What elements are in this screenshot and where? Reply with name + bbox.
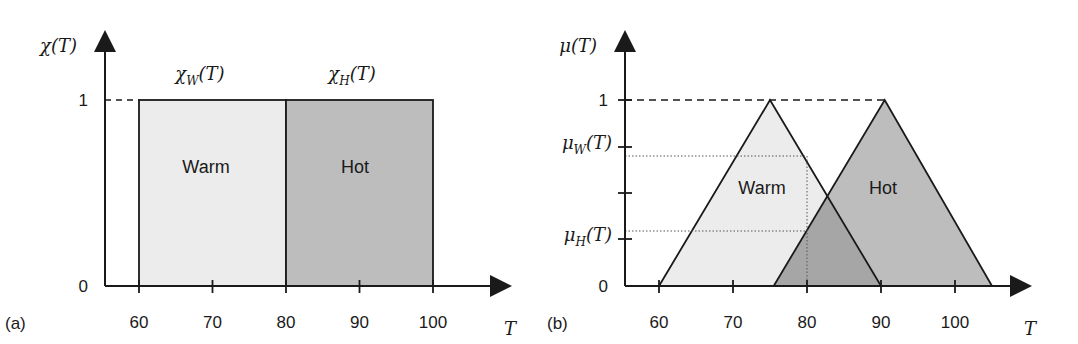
- y-tick-label-h-symbol: μ: [564, 224, 576, 245]
- y-tick-label-w-argument: (T): [586, 132, 612, 153]
- x-tick-label-90: 90: [350, 313, 369, 332]
- panel-b: WarmHot607080901000μH(T)μW(T)1μ(T)T(b): [547, 30, 1038, 339]
- y-tick-label-h-argument: (T): [586, 224, 612, 245]
- function-label-warm-symbol: χ: [173, 63, 187, 84]
- set-warm-label: Warm: [738, 178, 785, 198]
- y-tick-label-0: 0: [79, 277, 88, 296]
- y-axis-label: μ(T): [559, 35, 597, 56]
- function-label-hot-symbol: χ: [326, 63, 340, 84]
- set-warm-rect: [139, 100, 286, 286]
- x-tick-label-100: 100: [419, 313, 447, 332]
- set-hot-label: Hot: [341, 157, 369, 177]
- y-tick-label-1: 1: [599, 91, 608, 110]
- y-tick-label-0: 0: [599, 277, 608, 296]
- function-label-hot-subscript: H: [338, 74, 350, 88]
- x-tick-label-80: 80: [798, 313, 817, 332]
- y-tick-label-w-symbol: μ: [562, 132, 574, 153]
- function-label-warm: χW(T): [173, 63, 224, 88]
- x-axis-arrow-icon: [1010, 275, 1032, 297]
- y-tick-label-h-subscript: H: [574, 235, 586, 249]
- y-axis-arrow-icon: [614, 30, 636, 52]
- function-label-hot-argument: (T): [350, 63, 376, 84]
- y-axis-label: χ(T): [38, 35, 77, 56]
- y-tick-label-1: 1: [79, 91, 88, 110]
- x-tick-label-60: 60: [130, 313, 149, 332]
- set-hot-rect: [286, 100, 433, 286]
- x-tick-label-80: 80: [277, 313, 296, 332]
- panel-label: (a): [5, 314, 26, 333]
- x-axis-label: T: [504, 318, 518, 339]
- x-axis-arrow-icon: [490, 275, 512, 297]
- y-tick-label-h: μH(T): [564, 224, 612, 249]
- y-axis-arrow-icon: [94, 30, 116, 52]
- x-tick-label-100: 100: [941, 313, 969, 332]
- x-tick-label-90: 90: [872, 313, 891, 332]
- panel-label: (b): [547, 314, 568, 333]
- x-tick-label-70: 70: [724, 313, 743, 332]
- panel-a: WarmχW(T)HotχH(T)6070809010001χ(T)T(a): [5, 30, 518, 339]
- y-tick-label-w: μW(T): [562, 132, 612, 157]
- x-tick-label-60: 60: [650, 313, 669, 332]
- fuzzy-vs-crisp-sets-figure: WarmχW(T)HotχH(T)6070809010001χ(T)T(a)Wa…: [0, 0, 1078, 344]
- set-hot-label: Hot: [869, 178, 897, 198]
- function-label-hot: χH(T): [326, 63, 375, 88]
- x-tick-label-70: 70: [203, 313, 222, 332]
- function-label-warm-argument: (T): [199, 63, 225, 84]
- figure-canvas: WarmχW(T)HotχH(T)6070809010001χ(T)T(a)Wa…: [0, 0, 1078, 344]
- x-axis-label: T: [1024, 318, 1038, 339]
- set-warm-label: Warm: [182, 157, 229, 177]
